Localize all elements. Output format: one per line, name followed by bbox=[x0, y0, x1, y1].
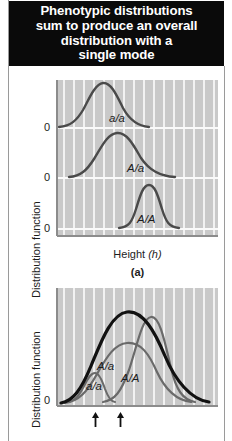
panel-a-ytick-0-bottom: 0 bbox=[36, 222, 50, 234]
title-line-2: sum to produce an overall bbox=[36, 19, 198, 34]
panel-a: Distribution function 0 0 0 bbox=[0, 66, 232, 266]
panel-b-x-axis bbox=[57, 405, 218, 407]
panel-b-y-axis-label: Distribution function bbox=[30, 331, 42, 428]
figure-root: Phenotypic distributions sum to produce … bbox=[0, 0, 232, 441]
panel-b-y-axis bbox=[56, 288, 58, 406]
panel-a-x-axis-label-var: (h) bbox=[148, 248, 161, 260]
panel-a-curves bbox=[57, 80, 218, 235]
panel-b-curves bbox=[57, 288, 218, 405]
panel-a-label-AA: A/A bbox=[137, 213, 156, 225]
panel-a-x-axis bbox=[57, 235, 218, 237]
panel-b-label-AA: A/A bbox=[121, 372, 140, 384]
panel-a-ytick-0-mid: 0 bbox=[36, 171, 50, 183]
panel-b-plot-area: A/a a/a A/A bbox=[57, 288, 218, 405]
panel-a-y-axis bbox=[56, 80, 58, 236]
panel-b: Distribution function 0 bbox=[0, 286, 232, 441]
figure-title-banner: Phenotypic distributions sum to produce … bbox=[9, 1, 224, 66]
curve-a-mid-Aa bbox=[69, 133, 175, 177]
panel-a-x-axis-label: Height (h) bbox=[57, 248, 218, 260]
curve-b-AA bbox=[103, 317, 195, 402]
panel-b-arrow-1 bbox=[91, 412, 100, 427]
panel-a-label-Aa: A/a bbox=[127, 162, 144, 174]
panel-b-label-Aa: A/a bbox=[97, 360, 114, 372]
panel-a-tag: (a) bbox=[57, 266, 218, 278]
panel-a-label-aa: a/a bbox=[109, 112, 125, 124]
panel-a-x-axis-label-text: Height bbox=[113, 248, 145, 260]
title-line-1: Phenotypic distributions bbox=[40, 4, 192, 19]
panel-a-y-axis-label: Distribution function bbox=[30, 201, 42, 298]
panel-b-ytick-0: 0 bbox=[36, 394, 50, 406]
curve-a-lower-aa bbox=[59, 83, 149, 127]
panel-b-arrow-2 bbox=[116, 412, 125, 427]
panel-a-plot-area: a/a A/a A/A bbox=[57, 80, 218, 235]
panel-a-ytick-0-top: 0 bbox=[36, 121, 50, 133]
panel-b-label-aa: a/a bbox=[86, 380, 102, 392]
title-line-4: single mode bbox=[79, 48, 155, 63]
title-line-3: distribution with a bbox=[61, 34, 173, 49]
